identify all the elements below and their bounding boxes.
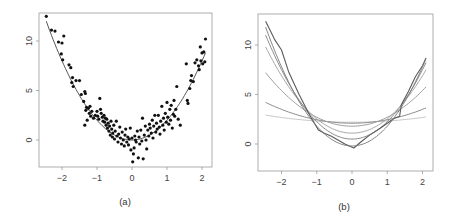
data-point [154, 131, 157, 134]
data-point [105, 118, 108, 121]
data-point [190, 74, 193, 77]
data-point [129, 127, 132, 130]
data-point [186, 102, 189, 105]
data-point [115, 120, 118, 123]
data-point [186, 99, 189, 102]
panel-b-fit-lines [266, 21, 426, 148]
data-point [144, 125, 147, 128]
data-point [84, 92, 87, 95]
x-tick-label: −2 [57, 173, 67, 183]
data-point [177, 118, 180, 121]
data-point [195, 58, 198, 61]
data-point [124, 128, 127, 131]
data-point [123, 144, 126, 147]
panel-b-x-axis: −2−1012 [276, 171, 425, 187]
data-point [168, 108, 171, 111]
data-point [67, 63, 70, 66]
data-point [173, 115, 176, 118]
data-point [97, 118, 100, 121]
data-point [188, 87, 191, 90]
data-point [136, 130, 139, 133]
data-point [158, 126, 161, 129]
data-point [131, 160, 134, 163]
data-point [107, 122, 110, 125]
data-point [61, 58, 64, 61]
data-point [169, 119, 172, 122]
data-point [122, 138, 125, 141]
data-point [117, 133, 120, 136]
data-point [198, 68, 201, 71]
data-point [98, 97, 101, 100]
data-point [78, 79, 81, 82]
data-point [151, 119, 154, 122]
data-point [155, 122, 158, 125]
y-tick-label: 10 [243, 40, 253, 50]
data-point [71, 76, 74, 79]
x-tick-label: 2 [420, 177, 425, 187]
data-point [152, 125, 155, 128]
panel-b-caption: (b) [338, 201, 350, 212]
data-point [165, 121, 168, 124]
figure: −2−1012 0510 (a) −2−1012 0510 (b) [0, 0, 454, 218]
data-point [179, 124, 182, 127]
data-point [140, 139, 143, 142]
data-point [202, 50, 205, 53]
data-point [108, 125, 111, 128]
data-point [170, 104, 173, 107]
x-tick-label: −2 [276, 177, 286, 187]
data-point [88, 112, 91, 115]
data-point [141, 117, 144, 120]
data-point [149, 127, 152, 130]
data-point [167, 123, 170, 126]
x-tick-label: 0 [129, 173, 134, 183]
data-point [137, 135, 140, 138]
data-point [103, 121, 106, 124]
data-point [72, 85, 75, 88]
data-point [143, 134, 146, 137]
data-point [119, 136, 122, 139]
x-tick-label: 1 [385, 177, 390, 187]
data-point [69, 66, 72, 69]
data-point [83, 124, 86, 127]
data-point [109, 120, 112, 123]
data-point [96, 115, 99, 118]
data-point [62, 34, 65, 37]
data-point [171, 127, 174, 130]
data-point [192, 80, 195, 83]
panel-a-y-axis: 0510 [24, 36, 39, 143]
data-point [110, 128, 113, 131]
data-point [153, 114, 156, 117]
data-point [70, 81, 73, 84]
data-point [60, 41, 63, 44]
data-point [137, 156, 140, 159]
data-point [145, 147, 148, 150]
panel-a-caption: (a) [119, 196, 131, 207]
data-point [129, 148, 132, 151]
data-point [89, 115, 92, 118]
y-tick-label: 5 [243, 92, 253, 97]
data-point [147, 134, 150, 137]
data-point [60, 52, 63, 55]
data-point [113, 137, 116, 140]
data-point [150, 132, 153, 135]
data-point [132, 152, 135, 155]
data-point [172, 99, 175, 102]
data-point [130, 136, 133, 139]
data-point [86, 119, 89, 122]
data-point [88, 105, 91, 108]
data-point [133, 146, 136, 149]
data-point [163, 129, 166, 132]
data-point [82, 100, 85, 103]
data-point [50, 29, 53, 32]
data-point [185, 62, 188, 65]
panel-a-x-axis: −2−1012 [57, 167, 205, 183]
data-point [125, 140, 128, 143]
data-point [144, 138, 147, 141]
data-point [90, 110, 93, 113]
data-point [135, 140, 138, 143]
data-point [161, 124, 164, 127]
data-point [45, 15, 48, 18]
data-point [160, 105, 163, 108]
data-point [165, 101, 168, 104]
y-tick-label: 0 [243, 141, 253, 146]
